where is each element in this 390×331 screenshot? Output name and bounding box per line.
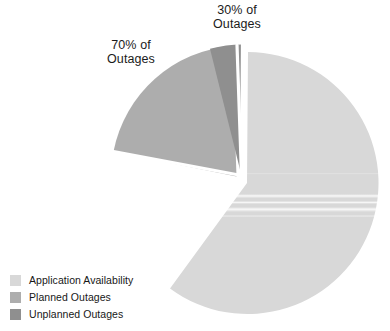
legend-swatch-application-availability [10, 275, 21, 286]
legend-item-unplanned-outages: Unplanned Outages [10, 306, 190, 323]
legend-label-planned-outages: Planned Outages [29, 292, 111, 303]
pie-chart: 30% of Outages 70% of Outages Applicatio… [0, 0, 390, 331]
callout-planned-line2: Outages [80, 53, 182, 67]
callout-planned-line1: 70% of [80, 39, 182, 53]
callout-unplanned-line2: Outages [186, 18, 288, 32]
callout-planned-outages: 70% of Outages [80, 39, 182, 66]
legend-swatch-unplanned-outages [10, 309, 21, 320]
legend-label-unplanned-outages: Unplanned Outages [29, 309, 123, 320]
chart-legend: Application Availability Planned Outages… [10, 272, 190, 323]
callout-unplanned-outages: 30% of Outages [186, 4, 288, 31]
legend-label-application-availability: Application Availability [29, 275, 133, 286]
callout-unplanned-line1: 30% of [186, 4, 288, 18]
legend-item-application-availability: Application Availability [10, 272, 190, 289]
legend-swatch-planned-outages [10, 292, 21, 303]
legend-item-planned-outages: Planned Outages [10, 289, 190, 306]
